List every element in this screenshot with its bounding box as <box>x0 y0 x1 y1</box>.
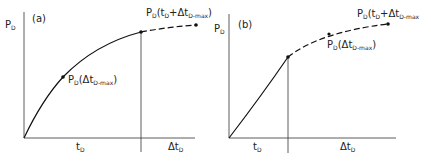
panel-tag: (a) <box>32 14 46 24</box>
x-label-tD: tD <box>76 142 85 155</box>
buildup-curve-dashed <box>141 25 196 32</box>
x-label-delta-tD: ΔtD <box>168 142 183 155</box>
point-tD <box>286 55 290 59</box>
point-label-tD-plus-dt-max: PD(tD+ΔtD-max) <box>146 8 212 21</box>
y-axis-label: PD <box>5 20 16 33</box>
point-tD <box>139 30 143 34</box>
point-label-tD-plus-dt-max: PD(tD+ΔtD-max <box>357 9 419 22</box>
point-label-dt-max: PD(ΔtD-max) <box>327 40 376 53</box>
point-tD-plus-dt-max <box>194 23 198 27</box>
y-axis-label: PD <box>214 24 225 37</box>
x-label-tD: tD <box>253 142 262 155</box>
x-label-delta-tD: ΔtD <box>340 142 355 155</box>
point-tD-plus-dt-max <box>386 22 390 26</box>
point-label-dt-max: PD(ΔtD-max) <box>68 75 117 88</box>
point-dt-max <box>61 75 65 79</box>
panel-b-graphics <box>229 14 396 153</box>
panel-tag: (b) <box>238 20 252 30</box>
point-dt-max <box>327 32 330 35</box>
drawdown-curve <box>229 57 288 138</box>
